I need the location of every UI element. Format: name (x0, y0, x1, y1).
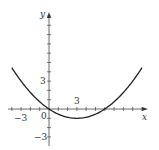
x-tick-label-3: 3 (74, 96, 80, 106)
y-tick-label-neg3: −3 (34, 132, 48, 142)
x-tick-label-neg3: −3 (14, 113, 28, 123)
y-axis-arrow-icon (47, 12, 51, 18)
origin-label: 0 (41, 111, 47, 121)
y-tick-label-3: 3 (40, 76, 46, 86)
x-axis-label: x (142, 112, 147, 122)
y-axis-label: y (39, 9, 46, 19)
parabola-graph: y x 0 3 −3 3 −3 (0, 0, 159, 150)
axes (8, 12, 148, 146)
x-axis-arrow-icon (142, 107, 148, 111)
